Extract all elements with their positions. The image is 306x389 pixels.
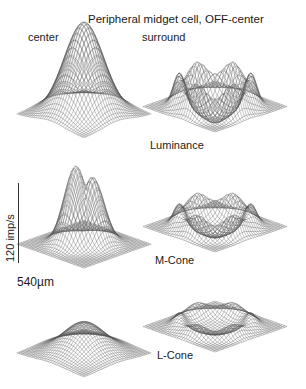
mesh-luminance-surround — [140, 30, 290, 140]
mesh-lcone-surround — [140, 270, 290, 360]
mesh-lcone-center — [14, 290, 154, 385]
horizontal-scale-label: 540µm — [17, 276, 54, 288]
row-label-luminance: Luminance — [150, 140, 204, 151]
mesh-mcone-surround — [140, 160, 290, 260]
mesh-mcone-center — [14, 148, 154, 276]
mesh-luminance-center — [14, 18, 154, 146]
